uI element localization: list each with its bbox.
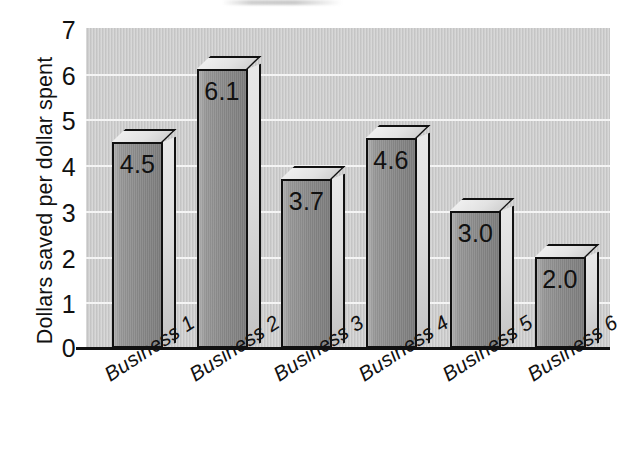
y-tick-label-2: 2 <box>62 246 76 271</box>
bar-front-face-3 <box>281 179 332 348</box>
bar-front-face-2 <box>197 69 248 348</box>
y-axis-title: Dollars saved per dollar spent <box>33 36 58 366</box>
y-tick-label-7: 7 <box>62 18 76 43</box>
bar-1[interactable]: 4.5 <box>112 129 176 348</box>
plot-area: 4.56.13.74.63.02.0 <box>86 28 610 348</box>
y-tick-label-1: 1 <box>62 292 76 317</box>
bar-side-face-2 <box>248 64 261 348</box>
bar-side-face-4 <box>417 132 430 348</box>
x-axis-labels: Business 1Business 2Business 3Business 4… <box>0 348 638 462</box>
bar-front-face-4 <box>366 138 417 348</box>
bar-4[interactable]: 4.6 <box>366 125 430 348</box>
bar-chart: Dollars saved per dollar spent 7 6 5 4 3… <box>0 0 638 462</box>
bar-front-face-5 <box>450 211 501 348</box>
bar-front-face-1 <box>112 142 163 348</box>
bar-2[interactable]: 6.1 <box>197 56 261 348</box>
y-tick-label-5: 5 <box>62 109 76 134</box>
gridline-5 <box>86 119 610 121</box>
y-tick-label-3: 3 <box>62 200 76 225</box>
y-tick-label-4: 4 <box>62 155 76 180</box>
gridline-6 <box>86 74 610 76</box>
scan-artifact <box>222 0 342 5</box>
bar-3[interactable]: 3.7 <box>281 166 345 348</box>
y-tick-label-6: 6 <box>62 63 76 88</box>
